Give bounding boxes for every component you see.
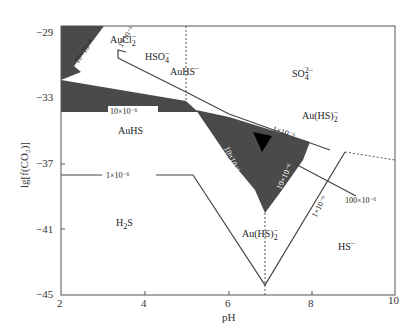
x-axis-label: pH bbox=[222, 311, 236, 323]
field-auhs2-upper: Au(HS)2− bbox=[302, 108, 339, 124]
field-hso4: HSO4− bbox=[145, 49, 170, 65]
dark-region-triangle bbox=[196, 110, 310, 213]
y-tick-37: −37 bbox=[36, 157, 54, 169]
x-tick-6: 6 bbox=[225, 297, 231, 309]
field-so4: SO42− bbox=[292, 66, 314, 82]
y-tick-41: −41 bbox=[36, 223, 53, 235]
contour-label-8: 100×10⁻⁶ bbox=[345, 196, 377, 205]
stability-diagram: 2 4 6 8 10 pH −29 −33 −37 −41 −45 lg[f(C… bbox=[0, 0, 419, 336]
x-tick-4: 4 bbox=[141, 297, 147, 309]
field-auhs: AuHS bbox=[118, 125, 143, 136]
field-auhs-minus: AuHS− bbox=[170, 64, 200, 77]
y-tick-33: −33 bbox=[36, 91, 54, 103]
x-tick-2: 2 bbox=[57, 297, 63, 309]
line-100e6 bbox=[284, 158, 356, 196]
contour-label-4: 1×10⁻⁶ bbox=[106, 171, 130, 180]
y-axis-label: lg[f(CO₂)] bbox=[18, 142, 31, 188]
dotted-line-right bbox=[345, 152, 395, 160]
y-tick-45: −45 bbox=[36, 288, 54, 300]
x-tick-8: 8 bbox=[308, 297, 314, 309]
y-tick-29: −29 bbox=[36, 26, 54, 38]
field-hs: HS− bbox=[338, 239, 356, 252]
field-h2s: H2S bbox=[116, 217, 133, 231]
field-auhs2-lower: Au(HS)2− bbox=[242, 226, 279, 242]
contour-label-3: 10×10⁻⁶ bbox=[110, 107, 138, 116]
x-tick-10: 10 bbox=[388, 294, 400, 306]
line-1e6-tick bbox=[118, 50, 126, 58]
